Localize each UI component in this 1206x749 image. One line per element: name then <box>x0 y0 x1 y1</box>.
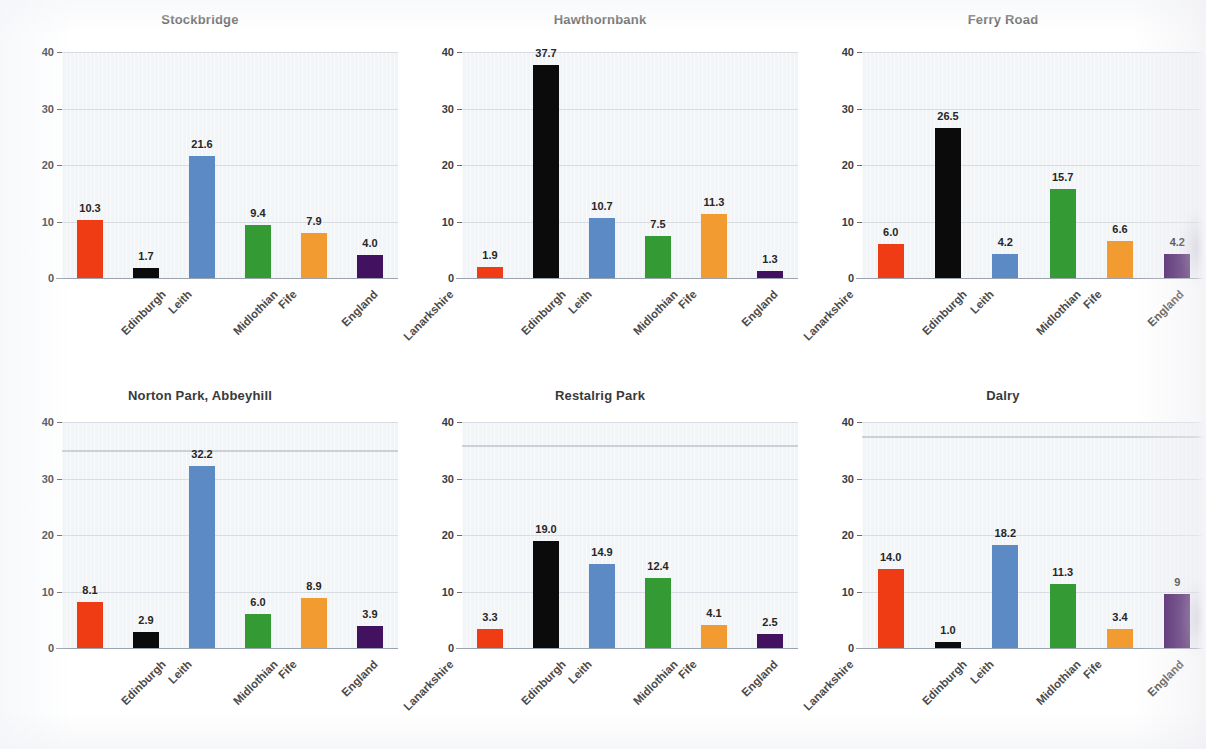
bar-leith <box>133 632 159 648</box>
x-axis-label-midlothian: Midlothian <box>631 288 680 337</box>
x-axis-label-midlothian: Midlothian <box>1034 288 1083 337</box>
y-gridline <box>862 592 1206 593</box>
bar-england <box>1107 241 1133 278</box>
x-axis-label-edinburgh: Edinburgh <box>119 658 168 707</box>
y-gridline <box>862 109 1206 110</box>
chart-title: Stockbridge <box>0 12 400 27</box>
y-axis-tick-label: 0 <box>28 272 54 284</box>
y-gridline <box>462 109 798 110</box>
y-axis-tick-mark <box>57 422 62 423</box>
y-gridline <box>462 535 798 536</box>
scan-fold-line <box>862 436 1206 438</box>
bar-midlothian <box>189 466 215 648</box>
y-axis-tick-label: 40 <box>828 416 854 428</box>
bar-midlothian <box>189 156 215 278</box>
y-axis-tick-mark <box>857 422 862 423</box>
plot-area <box>862 52 1206 278</box>
y-axis-tick-mark <box>857 222 862 223</box>
bar-value-label: 4.2 <box>998 236 1013 248</box>
y-axis-tick-mark <box>857 165 862 166</box>
y-axis-tick-label: 30 <box>28 103 54 115</box>
y-gridline <box>462 222 798 223</box>
bar-fife <box>1050 584 1076 648</box>
x-axis-line <box>856 278 1206 279</box>
y-gridline <box>62 535 398 536</box>
plot-area <box>62 422 398 648</box>
bar-value-label: 26.5 <box>937 110 958 122</box>
chart-panel: Norton Park, Abbeyhill0102030408.1Edinbu… <box>0 380 400 749</box>
bar-value-label: 1.3 <box>762 253 777 265</box>
y-axis-tick-label: 10 <box>28 586 54 598</box>
y-axis-tick-label: 0 <box>828 272 854 284</box>
y-axis-tick-label: 10 <box>828 216 854 228</box>
y-axis-tick-label: 40 <box>28 46 54 58</box>
bar-england <box>301 233 327 278</box>
bar-value-label: 2.9 <box>138 614 153 626</box>
bar-value-label: 14.0 <box>880 551 901 563</box>
scan-fold-line <box>62 450 398 452</box>
bar-lanarkshire <box>757 271 783 278</box>
chart-title: Hawthornbank <box>400 12 800 27</box>
bar-value-label: 8.1 <box>82 584 97 596</box>
bar-fife <box>645 236 671 278</box>
bar-value-label: 3.3 <box>482 611 497 623</box>
bar-england <box>701 214 727 278</box>
y-gridline <box>62 222 398 223</box>
y-axis-tick-mark <box>857 592 862 593</box>
bar-value-label: 19.0 <box>535 523 556 535</box>
x-axis-label-england: England <box>1145 658 1186 699</box>
x-axis-line <box>456 278 798 279</box>
bar-leith <box>935 128 961 278</box>
bar-midlothian <box>589 564 615 648</box>
bar-leith <box>533 65 559 278</box>
y-axis-tick-label: 30 <box>428 103 454 115</box>
bar-lanarkshire <box>1164 594 1190 648</box>
x-axis-label-england: England <box>739 288 780 329</box>
bar-value-label: 10.7 <box>591 200 612 212</box>
bar-edinburgh <box>77 602 103 648</box>
x-axis-label-leith: Leith <box>566 288 594 316</box>
plot-area <box>462 422 798 648</box>
y-axis-tick-mark <box>57 222 62 223</box>
y-gridline <box>62 592 398 593</box>
bar-england <box>1107 629 1133 648</box>
y-axis-tick-mark <box>457 52 462 53</box>
bar-midlothian <box>589 218 615 278</box>
y-gridline <box>462 592 798 593</box>
bar-value-label: 37.7 <box>535 47 556 59</box>
x-axis-label-fife: Fife <box>676 288 699 311</box>
y-axis-tick-label: 40 <box>828 46 854 58</box>
y-axis-tick-mark <box>57 109 62 110</box>
y-axis-tick-mark <box>457 479 462 480</box>
bar-value-label: 4.2 <box>1170 236 1185 248</box>
y-axis-tick-mark <box>857 479 862 480</box>
y-axis-tick-mark <box>457 109 462 110</box>
bar-lanarkshire <box>357 255 383 278</box>
plot-area <box>862 422 1206 648</box>
bar-value-label: 4.1 <box>706 607 721 619</box>
x-axis-line <box>56 648 398 649</box>
bar-england <box>701 625 727 648</box>
y-axis-tick-label: 0 <box>428 272 454 284</box>
y-axis-tick-label: 10 <box>28 216 54 228</box>
y-gridline <box>862 422 1206 423</box>
bar-value-label: 32.2 <box>191 448 212 460</box>
bar-leith <box>935 642 961 648</box>
bar-midlothian <box>992 545 1018 648</box>
x-axis-label-edinburgh: Edinburgh <box>519 288 568 337</box>
bar-lanarkshire <box>1164 254 1190 278</box>
y-axis-tick-label: 0 <box>428 642 454 654</box>
chart-panel: Stockbridge01020304010.3Edinburgh1.7Leit… <box>0 0 400 380</box>
x-axis-label-edinburgh: Edinburgh <box>919 288 968 337</box>
y-gridline <box>862 535 1206 536</box>
y-axis-tick-mark <box>457 592 462 593</box>
y-axis-tick-label: 40 <box>428 46 454 58</box>
bar-value-label: 6.6 <box>1112 223 1127 235</box>
bar-midlothian <box>992 254 1018 278</box>
y-axis-tick-mark <box>57 165 62 166</box>
bar-value-label: 3.9 <box>362 608 377 620</box>
y-axis-tick-mark <box>57 479 62 480</box>
bar-edinburgh <box>477 267 503 278</box>
y-axis-tick-label: 20 <box>28 529 54 541</box>
bar-value-label: 9 <box>1174 576 1180 588</box>
